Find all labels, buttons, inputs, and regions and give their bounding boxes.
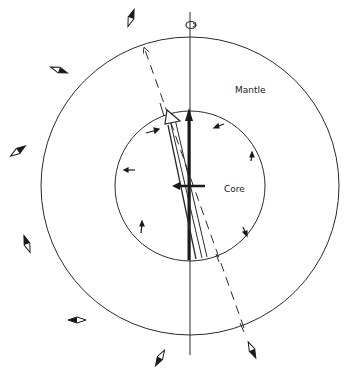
axis-rotation-ellipse bbox=[186, 22, 196, 29]
geodynamo-diagram: Mantle Core bbox=[0, 0, 344, 371]
mantle-label: Mantle bbox=[235, 85, 266, 95]
open-arrow-line-left bbox=[170, 120, 202, 258]
compass-needle-icon bbox=[125, 9, 137, 28]
core-field-arrowhead-icon bbox=[185, 108, 193, 121]
tick-core-top bbox=[160, 103, 164, 116]
compass-needle-icon bbox=[50, 64, 69, 76]
compass-needle-icon bbox=[153, 349, 167, 368]
compass-needle-icon bbox=[68, 317, 86, 323]
diagram-canvas bbox=[0, 0, 344, 371]
compass-needle-icon bbox=[245, 341, 258, 360]
equatorial-arrowhead-icon bbox=[172, 182, 180, 190]
compass-needle-icon bbox=[9, 143, 27, 158]
compass-needle-icon bbox=[21, 235, 33, 254]
surface-compass-needles bbox=[9, 9, 259, 368]
core-label: Core bbox=[224, 184, 245, 194]
